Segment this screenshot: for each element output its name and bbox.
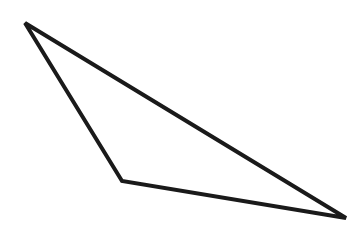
triangle-figure	[0, 0, 364, 251]
diagram-canvas	[0, 0, 364, 251]
triangle-shape	[25, 23, 346, 218]
